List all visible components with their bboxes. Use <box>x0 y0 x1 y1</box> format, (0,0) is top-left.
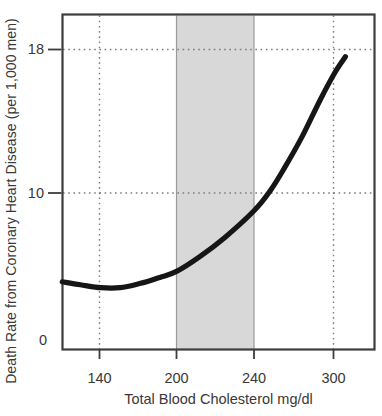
y-tick-label-0: 0 <box>21 332 47 349</box>
y-tick-label-10: 10 <box>18 185 44 202</box>
y-axis-title: Death Rate from Coronary Heart Disease (… <box>3 0 21 409</box>
x-tick-label-140: 140 <box>78 370 122 387</box>
plot-area <box>0 0 382 416</box>
risk-band-200-240 <box>177 16 255 350</box>
chd-cholesterol-chart: 18 10 0 140 200 240 300 Total Blood Chol… <box>0 0 382 416</box>
x-tick-label-300: 300 <box>312 370 356 387</box>
y-tick-label-18: 18 <box>18 41 44 58</box>
x-tick-label-200: 200 <box>155 370 199 387</box>
x-axis-title: Total Blood Cholesterol mg/dl <box>62 391 375 407</box>
x-tick-label-240: 240 <box>232 370 276 387</box>
